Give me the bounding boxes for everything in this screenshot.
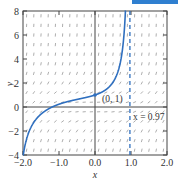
slope-segment	[156, 149, 157, 152]
slope-segment	[149, 139, 150, 142]
slope-segment	[26, 91, 28, 94]
slope-segment	[91, 149, 92, 152]
y-tick-label: 0	[14, 102, 19, 113]
slope-segment	[105, 62, 106, 65]
slope-segment	[54, 102, 57, 103]
slope-segment	[47, 120, 49, 122]
slope-segment	[69, 139, 70, 142]
slope-segment	[69, 82, 71, 85]
slope-segment	[134, 62, 135, 65]
slope-segment	[54, 120, 56, 122]
slope-segment	[163, 149, 164, 152]
slope-segment	[33, 72, 34, 75]
slope-segment	[34, 149, 35, 152]
slope-segment	[148, 91, 150, 93]
slope-segment	[68, 121, 71, 123]
slope-segment	[26, 72, 27, 75]
slope-segment	[62, 62, 63, 65]
slope-segment	[83, 82, 85, 85]
slope-segment	[47, 82, 48, 85]
slope-segment	[105, 82, 107, 85]
slope-segment	[156, 139, 157, 142]
slope-segment	[48, 149, 49, 152]
slope-segment	[54, 111, 57, 112]
slope-segment	[163, 72, 164, 75]
slope-segment	[105, 149, 106, 152]
slope-segment	[134, 130, 136, 133]
slope-segment	[40, 101, 42, 103]
slope-segment	[62, 72, 63, 75]
slope-segment	[48, 72, 49, 75]
solution-curve	[23, 11, 126, 155]
slope-segment	[133, 102, 136, 103]
slope-segment	[126, 102, 129, 103]
slope-segment	[69, 62, 70, 65]
slope-segment	[98, 82, 100, 85]
slope-segment	[83, 130, 85, 133]
slope-segment	[127, 130, 129, 133]
slope-segment	[148, 82, 149, 85]
slope-segment	[55, 139, 56, 142]
slope-segment	[156, 72, 157, 75]
slope-segment	[76, 121, 79, 123]
slope-segment	[133, 92, 135, 94]
slope-segment	[149, 62, 150, 65]
slope-segment	[26, 149, 27, 152]
slope-segment	[33, 91, 35, 94]
x-axis-title: x	[92, 169, 98, 179]
slope-segment	[120, 139, 121, 142]
slope-segment	[98, 62, 99, 65]
slope-segment	[55, 72, 56, 75]
slope-segment	[120, 149, 121, 152]
slope-segment	[98, 130, 100, 133]
slope-segment	[33, 130, 34, 133]
slope-segment	[62, 130, 64, 133]
slope-segment	[41, 139, 42, 142]
x-tick-label: −1.0	[50, 157, 68, 168]
slope-segment	[83, 92, 86, 93]
point-label: (0, 1)	[102, 94, 123, 105]
slope-segment	[90, 82, 92, 85]
slope-segment	[134, 72, 135, 75]
slope-segment	[127, 149, 128, 152]
slope-segment	[119, 82, 121, 85]
slope-segment	[55, 62, 56, 65]
slope-segment	[91, 62, 92, 65]
y-tick-label: −4	[8, 150, 19, 161]
slope-segment	[76, 130, 78, 133]
slope-segment	[148, 101, 150, 103]
slope-segment	[156, 82, 157, 85]
slope-segment	[26, 62, 27, 65]
slope-segment	[119, 121, 122, 123]
slope-segment	[141, 139, 142, 142]
slope-segment	[77, 149, 78, 152]
slope-segment	[91, 72, 92, 75]
slope-segment	[61, 111, 64, 112]
slope-segment	[112, 121, 115, 123]
slope-segment	[141, 62, 142, 65]
slope-segment	[141, 91, 143, 93]
slope-segment	[33, 101, 35, 103]
slope-segment	[48, 62, 49, 65]
slope-segment	[112, 72, 113, 75]
y-tick-label: 6	[14, 30, 19, 41]
slope-segment	[41, 62, 42, 65]
slope-segment	[48, 139, 49, 142]
slope-segment	[76, 92, 79, 94]
slope-segment	[156, 130, 157, 133]
slope-segment	[127, 139, 128, 142]
tick-labels: −2.0−1.00.01.02.0−4−202468	[8, 6, 173, 169]
slope-segment	[41, 72, 42, 75]
slope-segment	[54, 92, 56, 94]
slope-segment	[47, 111, 50, 113]
slope-segment	[34, 62, 35, 65]
y-tick-label: −2	[8, 126, 19, 137]
slope-segment	[62, 149, 63, 152]
x-tick-label: 2.0	[161, 157, 174, 168]
slope-segment	[61, 92, 64, 94]
slope-segment	[163, 62, 164, 65]
slope-segment	[69, 72, 70, 75]
slope-segment	[155, 91, 157, 94]
slope-field-chart: (0, 1) x = 0.97 −2.0−1.00.01.02.0−4−2024…	[0, 0, 178, 179]
slope-segment	[140, 101, 143, 103]
